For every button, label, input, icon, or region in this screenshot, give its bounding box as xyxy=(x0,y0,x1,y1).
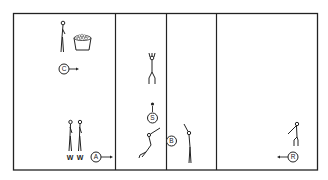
svg-text:C: C xyxy=(62,65,67,72)
svg-text:A: A xyxy=(94,153,99,160)
svg-text:S: S xyxy=(150,114,155,121)
svg-text:B: B xyxy=(169,137,173,144)
marker-b: B xyxy=(167,136,177,146)
waiting-label-1: W xyxy=(67,154,74,161)
waiting-figure-1-icon xyxy=(69,120,72,151)
reaching-figure-icon xyxy=(184,124,191,163)
marker-a: A xyxy=(91,152,113,162)
ball-basket-icon xyxy=(74,34,91,50)
court-diagram: C W W A S xyxy=(0,0,328,180)
waiting-figure-2-icon xyxy=(78,120,81,151)
arrow-right-icon xyxy=(110,156,113,159)
coach-figure-icon xyxy=(61,21,65,52)
diving-figure-icon xyxy=(139,128,160,158)
jumping-figure-icon xyxy=(149,53,155,84)
marker-c: C xyxy=(59,64,79,74)
waiting-label-2: W xyxy=(77,154,84,161)
court-outline xyxy=(14,14,318,171)
arrow-right-icon xyxy=(76,68,79,71)
ready-figure-icon xyxy=(288,122,299,146)
arrow-up-icon xyxy=(151,102,154,105)
marker-s: S xyxy=(148,102,158,123)
svg-text:R: R xyxy=(291,153,296,160)
marker-r: R xyxy=(277,152,298,162)
